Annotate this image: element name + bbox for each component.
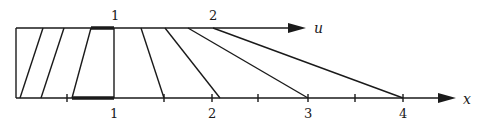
characteristic-line bbox=[141, 28, 164, 98]
x-axis-label: x bbox=[463, 91, 471, 107]
u-axis-label: u bbox=[314, 20, 323, 36]
characteristic-line bbox=[41, 28, 64, 98]
characteristic-line bbox=[20, 28, 43, 98]
characteristic-line bbox=[188, 28, 308, 98]
characteristic-line bbox=[213, 28, 403, 98]
characteristics-diagram: u x 1 2 1 2 3 4 bbox=[0, 0, 479, 135]
bottom-label-2: 2 bbox=[208, 106, 216, 121]
bottom-label-4: 4 bbox=[399, 106, 407, 121]
bottom-label-1: 1 bbox=[110, 106, 118, 121]
top-label-2: 2 bbox=[209, 8, 217, 23]
characteristic-line bbox=[72, 28, 91, 98]
u-axis-arrowhead-icon bbox=[288, 23, 306, 33]
x-axis-arrowhead-icon bbox=[438, 93, 456, 103]
top-label-1: 1 bbox=[111, 8, 119, 23]
bottom-label-3: 3 bbox=[304, 106, 312, 121]
characteristic-line bbox=[165, 28, 220, 98]
